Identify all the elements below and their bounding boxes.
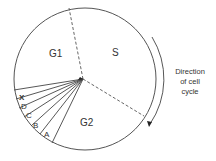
phase-label-s: S — [112, 47, 119, 58]
sector-label-x: X — [19, 93, 25, 102]
direction-label-line1: Direction — [175, 67, 205, 76]
sector-label-d: D — [21, 102, 27, 111]
sector-label-c: C — [26, 111, 32, 120]
sector-label-a: A — [44, 130, 50, 139]
direction-arrowhead-icon — [147, 121, 152, 127]
cell-cycle-diagram: G1 S G2 X D C B A Direction of cell cycl… — [0, 0, 216, 161]
g1-s-boundary — [69, 8, 83, 79]
s-g2-boundary — [83, 79, 144, 116]
phase-label-g1: G1 — [49, 48, 63, 59]
phase-label-g2: G2 — [80, 117, 94, 128]
direction-label-line3: cycle — [181, 87, 198, 96]
direction-arrow-arc — [150, 37, 164, 124]
direction-label-line2: of cell — [180, 77, 200, 86]
sector-label-b: B — [33, 121, 38, 130]
